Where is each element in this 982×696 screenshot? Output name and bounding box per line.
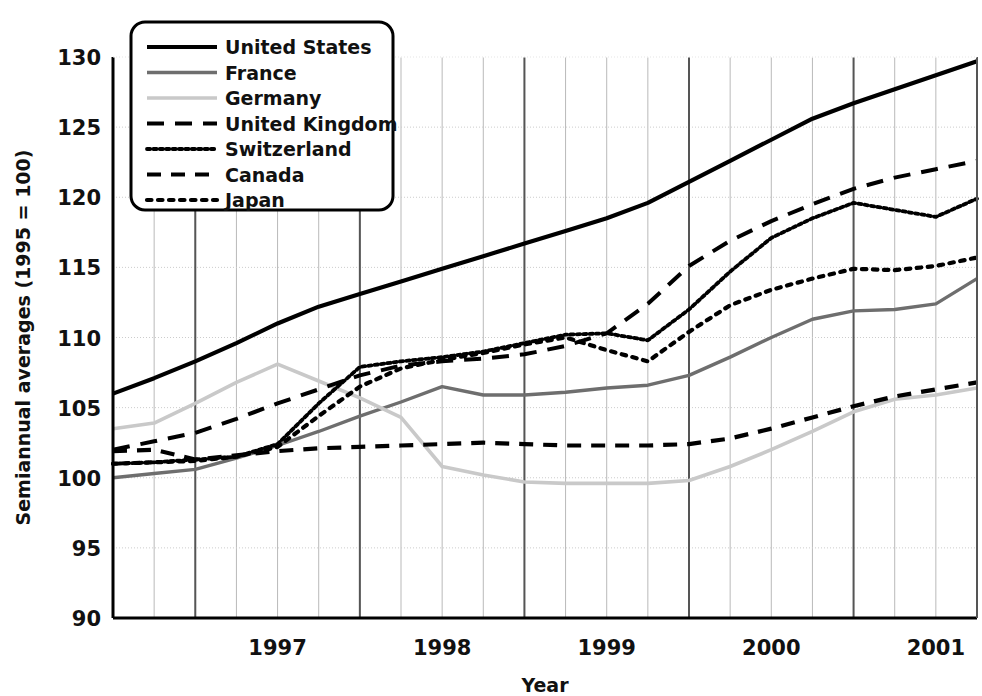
x-tick-label: 1999 <box>577 636 635 660</box>
x-tick-label: 2000 <box>742 636 800 660</box>
y-tick-label: 125 <box>57 116 101 140</box>
y-tick-label: 120 <box>57 186 101 210</box>
legend: United StatesFranceGermanyUnited Kingdom… <box>131 22 397 211</box>
legend-label-switzerland: Switzerland <box>225 138 352 160</box>
x-tick-label: 2001 <box>907 636 965 660</box>
x-tick-label: 1998 <box>413 636 471 660</box>
y-tick-label: 130 <box>57 46 101 70</box>
legend-label-japan: Japan <box>223 189 285 211</box>
legend-label-united-states: United States <box>225 36 372 58</box>
x-tick-label: 1997 <box>248 636 306 660</box>
legend-label-germany: Germany <box>225 87 322 109</box>
x-tick-labels: 19971998199920002001 <box>248 636 965 660</box>
y-tick-label: 115 <box>57 256 101 280</box>
series-line-germany <box>113 364 977 483</box>
chart-figure: 9095100105110115120125130199719981999200… <box>0 0 982 696</box>
y-tick-label: 100 <box>57 467 101 491</box>
y-tick-label: 90 <box>72 607 101 631</box>
x-axis-title: Year <box>520 674 569 696</box>
y-tick-labels: 9095100105110115120125130 <box>57 46 101 631</box>
legend-label-france: France <box>225 62 297 84</box>
y-tick-label: 105 <box>57 397 101 421</box>
legend-label-canada: Canada <box>225 164 305 186</box>
y-tick-label: 110 <box>57 327 101 351</box>
line-chart: 9095100105110115120125130199719981999200… <box>0 0 982 696</box>
legend-label-united-kingdom: United Kingdom <box>225 113 397 135</box>
y-tick-label: 95 <box>72 537 101 561</box>
y-axis-title: Semiannual averages (1995 = 100) <box>12 150 34 526</box>
series-line-japan <box>113 258 977 464</box>
